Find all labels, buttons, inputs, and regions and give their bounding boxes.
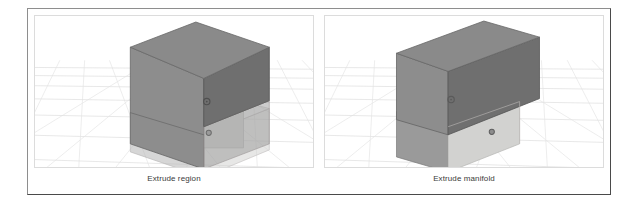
panel-row: Extrude region bbox=[28, 9, 610, 194]
panel-extrude-manifold: Extrude manifold bbox=[324, 15, 604, 190]
figure-container: Extrude region bbox=[27, 8, 611, 195]
face-handle[interactable] bbox=[489, 129, 494, 134]
solid-extrude-manifold[interactable] bbox=[325, 16, 603, 167]
panel-caption-right: Extrude manifold bbox=[324, 168, 604, 190]
viewport-left[interactable] bbox=[34, 15, 314, 168]
panel-caption-left: Extrude region bbox=[34, 168, 314, 190]
solid-extrude-region[interactable] bbox=[35, 16, 313, 167]
face-handle[interactable] bbox=[206, 130, 211, 135]
viewport-right[interactable] bbox=[324, 15, 604, 168]
panel-extrude-region: Extrude region bbox=[34, 15, 314, 190]
